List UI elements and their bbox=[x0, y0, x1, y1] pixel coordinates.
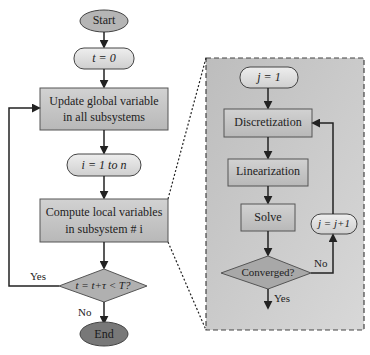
init-j-label: j = 1 bbox=[240, 70, 298, 85]
converged-label: Converged? bbox=[221, 266, 315, 278]
detail-panel bbox=[206, 58, 364, 330]
end-label: End bbox=[80, 327, 128, 342]
increment-j-label: j = j+1 bbox=[311, 217, 357, 229]
discretization-label: Discretization bbox=[224, 115, 312, 130]
start-label: Start bbox=[80, 13, 128, 28]
linearization-label: Linearization bbox=[228, 164, 308, 179]
loop-i-label: i = 1 to n bbox=[67, 158, 141, 173]
init-t-label: t = 0 bbox=[74, 51, 134, 66]
main-no-label: No bbox=[78, 306, 91, 318]
time-decision-label: t = t+τ < T? bbox=[59, 279, 147, 291]
yes-loop-arrow bbox=[9, 108, 59, 286]
update-global-label-1: Update global variable bbox=[40, 94, 168, 109]
solve-label: Solve bbox=[241, 210, 295, 225]
detail-no-label: No bbox=[314, 257, 327, 269]
compute-local-label-2: in subsystem # i bbox=[40, 222, 168, 237]
detail-yes-label: Yes bbox=[274, 292, 290, 304]
zoom-line-bottom bbox=[168, 242, 206, 330]
main-yes-label: Yes bbox=[30, 270, 46, 282]
update-global-label-2: in all subsystems bbox=[40, 110, 168, 125]
zoom-line-top bbox=[168, 58, 206, 199]
flowchart-canvas bbox=[0, 0, 370, 355]
compute-local-label-1: Compute local variables bbox=[40, 205, 168, 220]
